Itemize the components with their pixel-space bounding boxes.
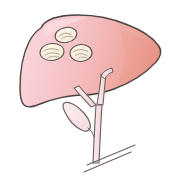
- anatomy-illustration: [0, 0, 179, 185]
- gallbladder-organ: [63, 102, 90, 131]
- duodenum-reference-lines: [84, 145, 135, 172]
- gallbladder-shape: [63, 102, 90, 131]
- duct-common-bile-trunk: [93, 105, 102, 163]
- duodenum-line-lower: [84, 152, 131, 172]
- liver-diagram-svg: [0, 0, 179, 185]
- liver-organ: [20, 15, 161, 107]
